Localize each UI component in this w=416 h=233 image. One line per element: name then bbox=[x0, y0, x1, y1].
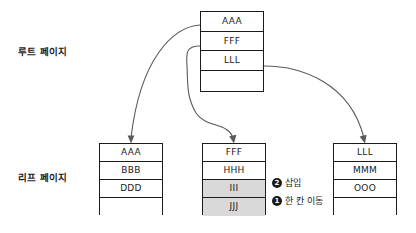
root-level-label: 루트 페이지 bbox=[18, 44, 68, 58]
leaf-page-1-row-1: BBB bbox=[100, 162, 162, 180]
leaf-page-2-row-1: HHH bbox=[203, 162, 265, 180]
pointer-arrow-aaa bbox=[128, 25, 200, 144]
leaf-level-label: 리프 페이지 bbox=[18, 170, 68, 184]
root-page-row-2: LLL bbox=[201, 51, 263, 71]
leaf-page-3-row-3 bbox=[334, 198, 396, 216]
leaf-page-3-row-0: LLL bbox=[334, 144, 396, 162]
leaf-page-1-row-0: AAA bbox=[100, 144, 162, 162]
root-page-row-1: FFF bbox=[201, 32, 263, 52]
leaf-page-1-row-2: DDD bbox=[100, 180, 162, 198]
leaf-page-2-row-0: FFF bbox=[203, 144, 265, 162]
leaf-page-3-row-1: MMM bbox=[334, 162, 396, 180]
leaf-page-3: LLL MMM OOO bbox=[333, 143, 397, 215]
leaf-page-1: AAA BBB DDD bbox=[99, 143, 163, 215]
leaf-page-2: FFF HHH III JJJ bbox=[202, 143, 266, 215]
diagram-canvas: 루트 페이지 리프 페이지 AAA FFF LLL AAA BBB DDD FF… bbox=[0, 0, 416, 233]
pointer-arrow-lll bbox=[264, 66, 367, 144]
annotation-insert-text: 삽입 bbox=[285, 176, 301, 189]
leaf-page-1-row-3 bbox=[100, 198, 162, 216]
leaf-page-2-row-2: III bbox=[203, 180, 265, 198]
leaf-page-2-row-3: JJJ bbox=[203, 198, 265, 216]
annotation-shift: 1 한 칸 이동 bbox=[272, 194, 323, 207]
step-1-marker: 1 bbox=[272, 196, 282, 206]
leaf-page-3-row-2: OOO bbox=[334, 180, 396, 198]
root-page-row-0: AAA bbox=[201, 12, 263, 32]
root-page: AAA FFF LLL bbox=[200, 11, 264, 92]
annotation-insert: 2 삽입 bbox=[272, 176, 301, 189]
annotation-shift-text: 한 칸 이동 bbox=[285, 194, 323, 207]
root-page-row-3 bbox=[201, 71, 263, 91]
step-2-marker: 2 bbox=[272, 178, 282, 188]
